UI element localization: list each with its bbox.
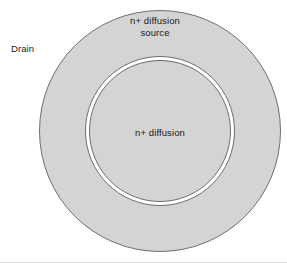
diagram-canvas: Drain n+ diffusion source n+ diffusion (0, 0, 287, 266)
label-n-plus-diffusion-source: n+ diffusion source (60, 15, 250, 38)
label-n-plus-diffusion: n+ diffusion (65, 127, 255, 139)
bottom-divider (0, 262, 287, 263)
label-drain: Drain (11, 43, 34, 55)
